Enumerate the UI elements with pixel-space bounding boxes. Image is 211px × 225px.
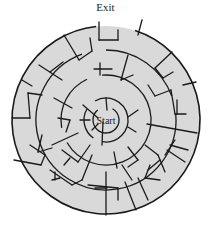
circular-maze: Start [0,0,211,225]
start-label: Start [97,115,116,126]
